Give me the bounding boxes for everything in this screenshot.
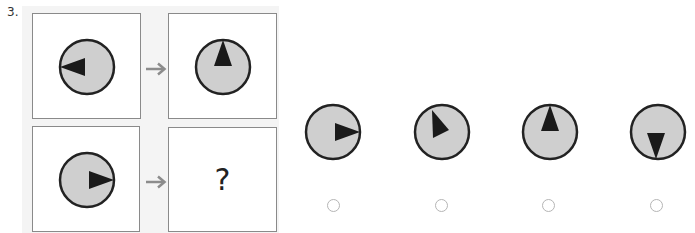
option-a-radio[interactable] xyxy=(327,199,340,212)
dial-pointer-right-icon xyxy=(57,150,117,210)
right-arrow-icon xyxy=(145,62,167,76)
unknown-answer-mark: ? xyxy=(169,162,276,197)
analogy-panel: ? xyxy=(22,6,279,233)
option-d-dial-down-icon xyxy=(628,102,688,162)
option-c-dial-up-icon xyxy=(520,102,580,162)
analogy-box-bottom-right: ? xyxy=(168,127,277,232)
option-c-radio[interactable] xyxy=(542,199,555,212)
question-number: 3. xyxy=(7,5,18,19)
option-b-dial-tilted-icon xyxy=(412,102,472,162)
option-d-radio[interactable] xyxy=(650,199,663,212)
analogy-box-bottom-left xyxy=(32,126,140,232)
analogy-box-top-right xyxy=(168,13,277,119)
option-a-dial-right-icon xyxy=(303,102,363,162)
right-arrow-icon xyxy=(145,175,167,189)
analogy-box-top-left xyxy=(32,13,141,119)
dial-pointer-up-icon xyxy=(193,37,253,97)
dial-pointer-left-icon xyxy=(57,37,117,97)
option-b-radio[interactable] xyxy=(435,199,448,212)
